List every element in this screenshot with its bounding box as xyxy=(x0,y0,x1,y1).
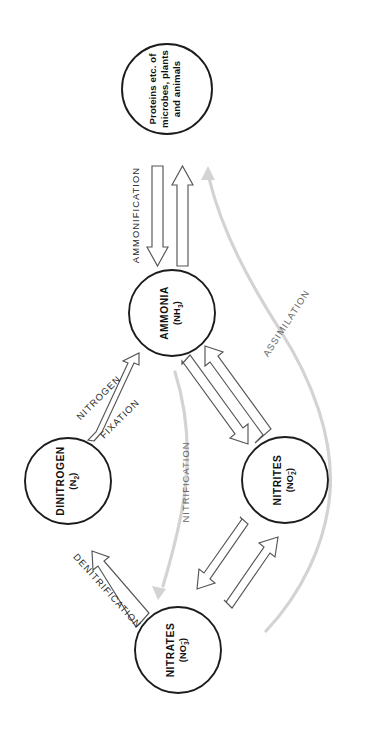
nitrates-formula: (NO–3) xyxy=(177,638,190,662)
nitrates-formula-close: ) xyxy=(178,638,188,641)
ammonia-name: AMMONIA xyxy=(159,286,170,340)
assimilation-curve xyxy=(209,178,330,631)
nitrates-formula-open: (NO xyxy=(178,645,188,662)
nitrites-formula: (NO–2) xyxy=(284,468,297,492)
ammonia-formula: (NH3) xyxy=(172,301,184,325)
ammonification-down-arrow xyxy=(147,166,168,266)
ammonification-up-arrow xyxy=(172,166,193,266)
denitrification-label: DENITRIFICATION xyxy=(71,551,144,630)
ammonia-formula-open: (NH xyxy=(172,308,182,325)
proteins-line-1: Proteins etc. of xyxy=(147,53,158,125)
nitrification-label: NITRIFICATION xyxy=(180,441,191,522)
nitrification-arrowhead xyxy=(152,586,166,600)
ammonia-formula-close: ) xyxy=(172,301,182,304)
proteins-label-group: Proteins etc. of microbes, plants and an… xyxy=(147,50,182,128)
proteins-line-2: microbes, plants xyxy=(159,50,170,128)
assimilation-label: ASSIMILATION xyxy=(260,288,311,359)
dinitrogen-formula-open: (N xyxy=(68,479,78,489)
assimilation-arrowhead xyxy=(201,166,215,180)
nitrates-name: NITRATES xyxy=(165,623,176,678)
dinitrogen-formula-close: ) xyxy=(68,472,78,475)
nitrites-formula-close: ) xyxy=(285,468,295,471)
dinitrogen-name: DINITROGEN xyxy=(55,446,66,515)
ammonification-label: AMMONIFICATION xyxy=(130,167,141,263)
nitrites-to-nitrates-arrow xyxy=(197,517,248,589)
nitrites-name: NITRITES xyxy=(272,455,283,506)
cycle-canvas: Proteins etc. of microbes, plants and an… xyxy=(0,0,374,738)
nitrites-formula-open: (NO xyxy=(285,475,295,492)
nitrogen-cycle-diagram: Proteins etc. of microbes, plants and an… xyxy=(0,0,374,738)
dinitrogen-formula: (N2) xyxy=(68,472,80,489)
proteins-line-3: and animals xyxy=(171,61,182,118)
